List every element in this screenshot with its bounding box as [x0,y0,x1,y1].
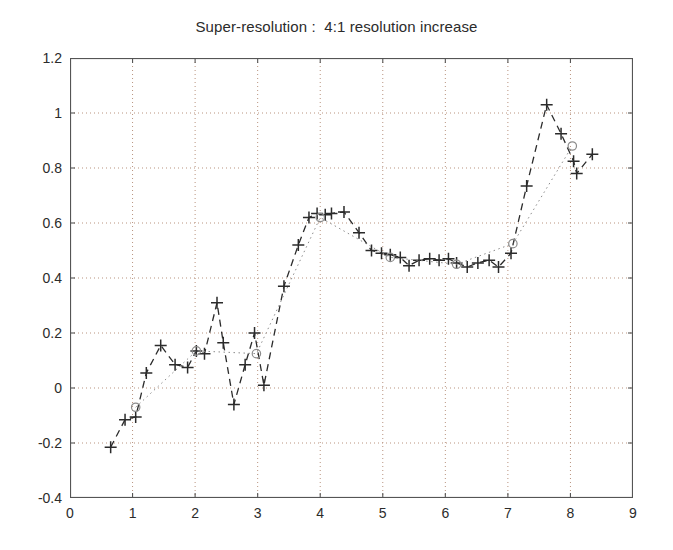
data-marker-plus [424,253,436,265]
data-marker-plus [353,227,365,239]
data-marker-plus [140,367,152,379]
data-marker-plus [541,99,553,111]
ytick-label: 0 [54,380,62,396]
xtick-label: 4 [316,505,324,521]
ytick-label: 0.2 [43,325,62,341]
series-line [111,105,593,447]
figure-container: Super-resolution : 4:1 resolution increa… [0,0,673,550]
ytick-label: 0.6 [43,215,62,231]
data-marker-plus [130,411,142,423]
xtick-label: 7 [504,505,512,521]
data-marker-plus [228,399,240,411]
data-marker-plus [211,297,223,309]
ytick-label: 1.2 [43,50,62,66]
data-marker-plus [521,180,533,192]
data-marker-plus [217,337,229,349]
data-marker-plus [155,339,167,351]
data-marker-plus [182,361,194,373]
ytick-label: 0.4 [43,270,62,286]
data-marker-plus [433,254,445,266]
plot-area [70,58,633,498]
xtick-label: 3 [254,505,262,521]
xtick-label: 6 [441,505,449,521]
data-marker-plus [338,206,350,218]
ytick-label: 0.8 [43,160,62,176]
data-marker-plus [413,254,425,266]
data-marker-plus [366,245,378,257]
ytick-label: -0.4 [38,490,62,506]
chart-title: Super-resolution : 4:1 resolution increa… [0,18,673,35]
data-marker-plus [319,209,331,221]
plot-svg [70,58,633,498]
xtick-label: 8 [567,505,575,521]
series-0 [105,99,599,453]
data-marker-plus [292,239,304,251]
data-marker-plus [472,257,484,269]
xtick-label: 1 [129,505,137,521]
xtick-label: 0 [66,505,74,521]
data-marker-plus [461,261,473,273]
data-marker-plus [483,254,495,266]
data-marker-plus [586,148,598,160]
data-marker-plus [249,327,261,339]
xtick-label: 9 [629,505,637,521]
ytick-label: -0.2 [38,435,62,451]
data-marker-plus [568,155,580,167]
gridlines [70,58,633,498]
data-marker-plus [169,359,181,371]
xtick-label: 5 [379,505,387,521]
series-1 [131,142,576,412]
series-line [136,146,573,407]
data-marker-plus [325,207,337,219]
data-marker-circle [568,142,576,150]
data-marker-plus [258,379,270,391]
xtick-label: 2 [191,505,199,521]
data-marker-plus [505,247,517,259]
data-marker-plus [278,280,290,292]
ytick-label: 1 [54,105,62,121]
data-marker-plus [571,168,583,180]
data-marker-plus [119,414,131,426]
data-marker-plus [239,359,251,371]
data-marker-plus [555,128,567,140]
